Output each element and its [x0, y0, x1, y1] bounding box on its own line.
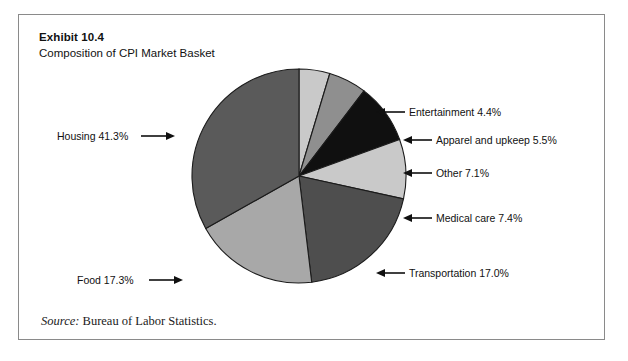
callout-label-food: Food 17.3% [77, 274, 134, 286]
callout-label-other: Other 7.1% [436, 167, 489, 179]
callout-label-entertainment: Entertainment 4.4% [409, 106, 501, 118]
arrow-left-icon [376, 267, 406, 279]
arrow-left-icon [403, 134, 433, 146]
callout-food: Food 17.3% [77, 273, 183, 286]
source-prefix: Source: [41, 314, 79, 328]
pie-chart [188, 65, 410, 287]
arrow-right-icon [141, 130, 175, 142]
exhibit-figure-frame: Exhibit 10.4 Composition of CPI Market B… [18, 14, 605, 340]
pie-chart-area: Entertainment 4.4% Apparel and upkeep 5.… [19, 15, 606, 341]
callout-label-transportation: Transportation 17.0% [409, 267, 509, 279]
callout-label-apparel-and-upkeep: Apparel and upkeep 5.5% [436, 134, 557, 146]
callout-apparel-and-upkeep: Apparel and upkeep 5.5% [403, 133, 557, 146]
source-note: Source: Bureau of Labor Statistics. [41, 314, 217, 329]
callout-medical-care: Medical care 7.4% [403, 211, 522, 224]
callout-transportation: Transportation 17.0% [376, 266, 509, 279]
source-text: Bureau of Labor Statistics. [79, 314, 216, 328]
arrow-left-icon [403, 212, 433, 224]
arrow-left-icon [403, 167, 433, 179]
callout-label-housing: Housing 41.3% [57, 130, 128, 142]
callout-label-medical-care: Medical care 7.4% [436, 212, 522, 224]
arrow-left-icon [376, 106, 406, 118]
arrow-right-icon [149, 274, 183, 286]
callout-housing: Housing 41.3% [57, 129, 175, 142]
callout-other: Other 7.1% [403, 166, 489, 179]
callout-entertainment: Entertainment 4.4% [376, 105, 501, 118]
